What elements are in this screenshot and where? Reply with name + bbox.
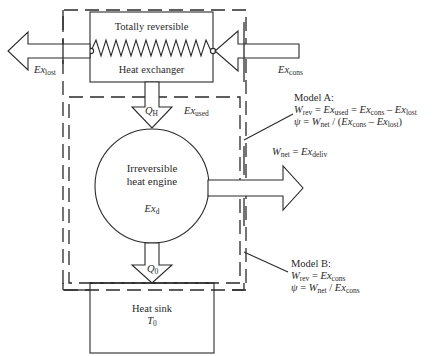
ex-used-label: Exused [184,105,209,117]
ex-lost-label: Exlost [34,64,56,76]
ex-base: Ex [377,116,388,127]
eq-op: ) [399,116,403,127]
model-a-eq1: Wrev = Exused = Excons – Exlost [294,104,417,116]
eq-op: = [348,104,359,115]
heat-exchanger-title-line2: Heat exchanger [119,64,185,75]
q0-sub: 0 [155,267,159,276]
ex-base: Ex [360,104,371,115]
eq-op: – [384,104,395,115]
w-net-base: W [272,146,281,157]
model-b-eq2: ψ = Wnet / Excons [291,282,360,294]
eq-op: / ( [330,116,342,127]
w-net-deliv-label: Wnet = Exdeliv [272,146,327,158]
heat-exchanger-subtitle: Heat exchanger [90,64,213,76]
ex-deliv-base: Ex [301,146,312,157]
ex-cons-label: Excons [278,64,303,76]
model-b-leader [244,252,288,272]
ex-lost-base: Ex [34,64,45,75]
ex-sub: cons [346,286,360,295]
ex-sub: lost [388,120,399,129]
q0-label: Q0 [147,263,158,275]
ex-base: Ex [335,282,346,293]
ex-d-sub: d [156,207,160,216]
w-net-sub: net [281,150,290,159]
qh-base: Q [145,105,153,116]
ex-cons-base: Ex [278,64,289,75]
eq-op: = [309,270,320,281]
ex-base: Ex [324,104,335,115]
q0-base: Q [147,263,155,274]
t0-sub: 0 [153,319,157,328]
model-a-eq2: ψ = Wnet / (Excons – Exlost) [294,116,417,128]
engine-label: Irreversible heat engine [95,162,209,187]
w-net-arrow [208,166,303,210]
eq-op: / [327,282,335,293]
w-net-eq: = [290,146,301,157]
diagram-canvas [0,0,440,356]
ex-base: Ex [321,270,332,281]
w-rev-base: W [294,104,303,115]
ex-base: Ex [341,116,352,127]
heat-exchanger-title-line1: Totally reversible [115,21,189,32]
w-rev-base: W [291,270,300,281]
qh-label: QH [145,105,158,117]
qh-sub: H [153,109,158,118]
ex-used-base: Ex [184,105,195,116]
model-a-leader [244,114,293,140]
w-net-sub: net [320,120,329,129]
heat-sink-label: Heat sink T0 [90,303,214,327]
model-b-title: Model B: [291,258,360,270]
engine-line1: Irreversible [95,162,209,175]
eq-op: – [366,116,377,127]
engine-line2: heat engine [95,175,209,188]
ex-d-base: Ex [145,203,156,214]
ex-deliv-sub: deliv [312,150,327,159]
ex-sub: cons [352,120,366,129]
ex-d-label: Exd [95,203,209,215]
w-net-sub: net [317,286,326,295]
ex-cons-sub: cons [289,68,303,77]
heat-exchanger-title: Totally reversible [90,21,213,33]
ex-used-sub: used [195,109,209,118]
eq-op: = [301,116,312,127]
model-a-block: Model A: Wrev = Exused = Excons – Exlost… [294,92,417,128]
ex-lost-sub: lost [45,68,56,77]
eq-op: = [298,282,309,293]
heat-sink-line1: Heat sink [90,303,214,315]
model-a-title: Model A: [294,92,417,104]
model-b-eq1: Wrev = Excons [291,270,360,282]
eq-op: = [312,104,323,115]
model-b-block: Model B: Wrev = Excons ψ = Wnet / Excons [291,258,360,294]
ex-base: Ex [395,104,406,115]
ex-sub: lost [406,108,417,117]
